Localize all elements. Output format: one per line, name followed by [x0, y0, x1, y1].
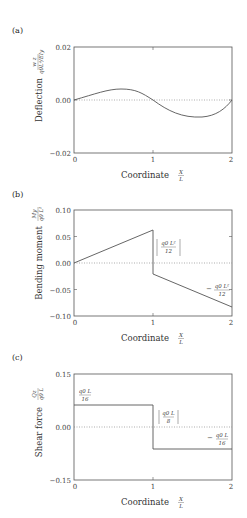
panel-c-label: (c): [12, 353, 23, 362]
panel-b-ytick: −0.05: [50, 287, 71, 295]
panel-b-ytick: 0.00: [55, 260, 71, 268]
panel-c-ytick: 0.00: [55, 424, 71, 432]
panel-c-ytick: −0.15: [50, 477, 71, 485]
panel-c-ytick: 0.15: [55, 371, 71, 379]
panel-c-left-annotation-den: 16: [82, 396, 89, 402]
panel-a-xtick: 0: [73, 156, 77, 164]
panel-c-ylabel-num: Qz: [31, 390, 37, 398]
panel-c-right-annotation-den: 16: [219, 440, 226, 446]
panel-c-right-annotation-num: q0 L: [216, 432, 229, 439]
panel-b-end-annotation-num: q0 L²: [215, 283, 230, 290]
panel-a-xlabel-num: X: [178, 169, 184, 175]
panel-c-xtick: 2: [229, 483, 233, 491]
panel-c-jump-annotation-den: 8: [167, 418, 171, 424]
panel-c-xlabel-num: X: [178, 496, 184, 502]
panel-c-shear-curve: [74, 405, 232, 449]
panel-c-xtick: 1: [151, 483, 155, 491]
panel-b-xtick: 2: [229, 319, 233, 327]
panel-a-xtick: 2: [229, 156, 233, 164]
panel-c-xlabel-den: L: [178, 503, 183, 509]
panel-b-jump-annotation-den: 12: [165, 248, 172, 254]
panel-c-xlabel: Coordinate: [121, 497, 169, 507]
panel-b-ylabel: Bending moment: [34, 226, 44, 300]
panel-a-ylabel: Deflection: [34, 77, 44, 122]
panel-b-end-annotation-den: 12: [219, 291, 226, 297]
panel-c-ylabel: Shear force: [34, 407, 44, 457]
panel-b-ytick: 0.10: [55, 207, 71, 215]
panel-a-ytick: −0.02: [50, 150, 71, 158]
panel-c-xtick: 0: [73, 483, 77, 491]
panel-c-right-annotation-sign: −: [207, 434, 213, 442]
panel-a-deflection-curve: [74, 89, 232, 117]
panel-a: (a) 0.02 0.00 −0.02 0 1 2 Deflection w z…: [12, 26, 233, 182]
figure: (a) 0.02 0.00 −0.02 0 1 2 Deflection w z…: [0, 0, 247, 518]
panel-c-left-annotation-num: q0 L: [79, 388, 92, 395]
panel-b-xlabel-den: L: [178, 339, 183, 345]
panel-b-label: (b): [12, 190, 23, 199]
panel-b-moment-curve: [74, 230, 232, 307]
panel-b-xlabel-num: X: [178, 332, 184, 338]
panel-b-ylabel-num: My: [31, 209, 38, 220]
panel-c-jump-annotation-num: q0 L: [162, 410, 175, 417]
panel-a-ylabel-den: q0L⁴/EIy: [38, 49, 45, 74]
panel-b: (b) 0.10 0.05 0.00 −0.05 −0.10 0 1 2 q0 …: [12, 190, 233, 345]
panel-b-xtick: 0: [73, 319, 77, 327]
panel-a-xtick: 1: [151, 156, 155, 164]
panel-b-ytick: 0.05: [55, 234, 71, 242]
panel-b-jump-annotation-num: q0 L²: [161, 240, 176, 247]
panel-b-xtick: 1: [151, 319, 155, 327]
panel-a-xlabel-den: L: [178, 176, 183, 182]
panel-b-ytick: −0.10: [50, 313, 71, 321]
panel-b-xlabel: Coordinate: [121, 333, 169, 343]
panel-b-ylabel-den: q0 L²: [38, 207, 45, 222]
panel-a-xlabel: Coordinate: [121, 170, 169, 180]
panel-c-ylabel-den: q0 L: [38, 387, 45, 400]
panel-a-ytick: 0.00: [55, 97, 71, 105]
panel-b-end-annotation-sign: −: [206, 285, 212, 293]
panel-a-ytick: 0.02: [55, 44, 71, 52]
panel-c: (c) 0.15 0.00 −0.15 0 1 2 q0 L 16 q0 L 8…: [12, 353, 233, 509]
panel-a-label: (a): [12, 26, 23, 35]
panel-a-ylabel-num: w z: [31, 57, 37, 66]
